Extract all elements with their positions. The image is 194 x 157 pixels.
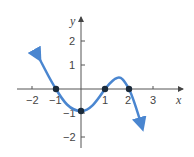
y-tick-label: 2 <box>69 35 75 47</box>
x-tick-label: 3 <box>150 94 156 106</box>
x-tick-label: 1 <box>102 94 108 106</box>
y-tick-label: −2 <box>63 131 76 143</box>
x-tick-label: −2 <box>26 94 39 106</box>
function-curve <box>39 58 142 127</box>
x-axis-label: x <box>175 93 182 107</box>
point-marker <box>78 108 84 114</box>
point-marker <box>126 86 132 92</box>
point-marker <box>53 86 59 92</box>
point-marker <box>102 86 108 92</box>
y-tick-label: 1 <box>69 59 75 71</box>
y-axis-label: y <box>69 14 76 28</box>
function-graph: −2 −1 1 2 3 2 1 −1 −2 x y <box>0 0 194 157</box>
x-tick-label: 2 <box>125 94 131 106</box>
